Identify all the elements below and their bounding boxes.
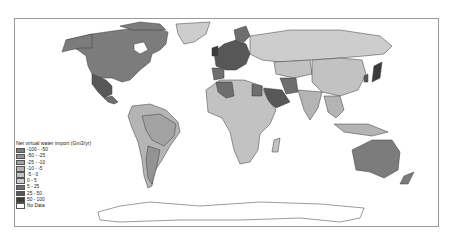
legend-title: Net virtual water import (Gm3/yr): [16, 140, 91, 146]
region-china: [312, 58, 366, 96]
map-legend: Net virtual water import (Gm3/yr) -100 -…: [16, 140, 91, 209]
legend-swatch: [16, 172, 25, 178]
region-central-asia: [274, 60, 312, 78]
legend-swatch: [16, 154, 25, 160]
legend-swatch: [16, 160, 25, 166]
region-australia: [352, 140, 400, 178]
region-iberia: [212, 68, 224, 80]
legend-swatch: [16, 203, 25, 209]
region-india: [298, 90, 322, 120]
region-europe: [214, 40, 250, 70]
legend-swatch: [16, 148, 25, 154]
legend-swatch: [16, 185, 25, 191]
region-russia: [250, 30, 392, 62]
region-uk: [212, 46, 218, 56]
legend-swatch: [16, 197, 25, 203]
legend-label: No Data: [27, 203, 45, 209]
region-southeast-asia: [324, 96, 344, 118]
legend-item: No Data: [16, 203, 91, 209]
region-new-zealand: [400, 172, 414, 184]
region-greenland: [176, 22, 210, 44]
region-arctic-islands: [120, 22, 166, 30]
region-antarctica: [98, 202, 364, 222]
region-japan: [372, 62, 382, 82]
region-madagascar: [272, 138, 280, 152]
legend-swatch: [16, 166, 25, 172]
region-egypt: [252, 84, 262, 96]
legend-swatch: [16, 191, 25, 197]
region-indonesia: [334, 124, 388, 136]
region-north-america: [66, 27, 168, 82]
legend-swatch: [16, 178, 25, 184]
